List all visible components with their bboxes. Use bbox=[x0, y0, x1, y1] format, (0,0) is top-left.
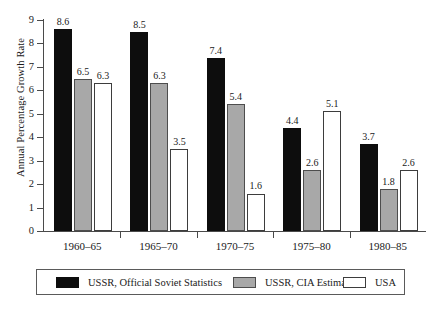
bar[interactable] bbox=[283, 128, 301, 231]
y-axis-tick-label: 1 bbox=[0, 203, 34, 213]
x-axis-label: 1980–85 bbox=[348, 240, 428, 253]
y-axis-tick bbox=[37, 231, 43, 232]
bar-value-label: 2.6 bbox=[389, 158, 429, 168]
x-axis-line bbox=[43, 231, 426, 232]
legend-swatch-icon bbox=[56, 277, 79, 288]
bar[interactable] bbox=[207, 58, 225, 231]
bar[interactable] bbox=[130, 32, 148, 231]
x-axis-tick bbox=[197, 232, 198, 238]
chart-page: Annual Percentage Growth Rate 9876543210… bbox=[0, 0, 441, 309]
y-axis-tick bbox=[37, 161, 43, 162]
legend-swatch-icon bbox=[233, 277, 256, 288]
y-axis-tick bbox=[37, 184, 43, 185]
y-axis-tick bbox=[37, 90, 43, 91]
y-axis-tick-label: 3 bbox=[0, 156, 34, 166]
y-axis-tick-label: 8 bbox=[0, 38, 34, 48]
y-axis-tick-label: 7 bbox=[0, 62, 34, 72]
y-axis-tick-label: 5 bbox=[0, 109, 34, 119]
y-axis-tick bbox=[37, 208, 43, 209]
x-axis-label: 1960–65 bbox=[42, 240, 122, 253]
bar-value-label: 7.4 bbox=[196, 46, 236, 56]
bar[interactable] bbox=[303, 170, 321, 231]
y-axis-tick bbox=[37, 137, 43, 138]
x-axis-label: 1965–70 bbox=[119, 240, 199, 253]
bar[interactable] bbox=[323, 111, 341, 231]
x-axis-tick bbox=[273, 232, 274, 238]
legend-label: USSR, Official Soviet Statistics bbox=[88, 277, 222, 288]
bar[interactable] bbox=[74, 79, 92, 231]
bar[interactable] bbox=[227, 104, 245, 231]
y-axis-tick bbox=[37, 114, 43, 115]
y-axis-tick bbox=[37, 43, 43, 44]
x-axis-tick bbox=[350, 232, 351, 238]
legend-item[interactable]: USSR, Official Soviet Statistics bbox=[56, 277, 222, 288]
y-axis-tick bbox=[37, 67, 43, 68]
plot-area: 8.66.56.38.56.33.57.45.41.64.42.65.13.71… bbox=[44, 20, 426, 231]
bar-value-label: 3.5 bbox=[159, 137, 199, 147]
bar[interactable] bbox=[54, 29, 72, 231]
x-axis-label: 1975–80 bbox=[271, 240, 351, 253]
legend-label: USA bbox=[375, 277, 396, 288]
bar-value-label: 1.6 bbox=[236, 181, 276, 191]
bar[interactable] bbox=[360, 144, 378, 231]
legend-label: USSR, CIA Estimate bbox=[265, 277, 353, 288]
bar-value-label: 6.3 bbox=[83, 71, 123, 81]
bar[interactable] bbox=[170, 149, 188, 231]
bar[interactable] bbox=[150, 83, 168, 231]
bar-value-label: 5.4 bbox=[216, 92, 256, 102]
x-axis-label: 1970–75 bbox=[195, 240, 275, 253]
legend-item[interactable]: USSR, CIA Estimate bbox=[233, 277, 353, 288]
y-axis-tick-label: 0 bbox=[0, 226, 34, 236]
y-axis-tick-label: 6 bbox=[0, 85, 34, 95]
chart-legend: USSR, Official Soviet StatisticsUSSR, CI… bbox=[36, 269, 405, 295]
bar[interactable] bbox=[247, 194, 265, 232]
bar[interactable] bbox=[400, 170, 418, 231]
bar-value-label: 6.3 bbox=[139, 71, 179, 81]
bar[interactable] bbox=[94, 83, 112, 231]
x-axis-tick bbox=[120, 232, 121, 238]
bar-value-label: 3.7 bbox=[349, 132, 389, 142]
y-axis-tick-label: 2 bbox=[0, 179, 34, 189]
bar-value-label: 8.6 bbox=[43, 17, 83, 27]
legend-item[interactable]: USA bbox=[343, 277, 396, 288]
legend-swatch-icon bbox=[343, 277, 366, 288]
bar-value-label: 5.1 bbox=[312, 99, 352, 109]
bar[interactable] bbox=[380, 189, 398, 231]
bar-value-label: 8.5 bbox=[119, 20, 159, 30]
y-axis-tick-label: 9 bbox=[0, 15, 34, 25]
y-axis-tick-label: 4 bbox=[0, 132, 34, 142]
bar-value-label: 4.4 bbox=[272, 116, 312, 126]
